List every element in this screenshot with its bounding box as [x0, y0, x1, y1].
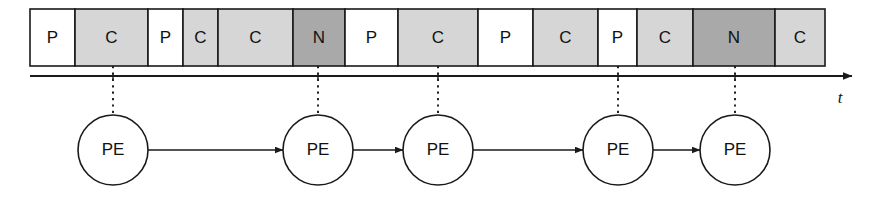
phase-cell-p-0[interactable]: P	[30, 9, 75, 66]
diagram-svg: PCPCCNPCPCPCNC t PEPEPEPEPE	[0, 0, 881, 198]
pe-node-label: PE	[427, 140, 450, 159]
phase-cell-n-5[interactable]: N	[293, 9, 345, 66]
pe-node-3[interactable]: PE	[583, 115, 653, 185]
phase-cell-c-11[interactable]: C	[637, 9, 693, 66]
phase-cell-label: C	[659, 28, 671, 47]
phase-cell-label: P	[500, 28, 511, 47]
phase-cell-c-9[interactable]: C	[533, 9, 598, 66]
pe-chain: PEPEPEPEPE	[78, 115, 770, 185]
pe-node-label: PE	[724, 140, 747, 159]
phase-cell-p-8[interactable]: P	[478, 9, 533, 66]
phase-cell-label: P	[47, 28, 58, 47]
phase-cell-n-12[interactable]: N	[693, 9, 775, 66]
phase-cell-c-3[interactable]: C	[183, 9, 218, 66]
phase-cell-label: C	[249, 28, 261, 47]
phase-cell-label: N	[728, 28, 740, 47]
phase-cell-label: C	[432, 28, 444, 47]
pe-node-label: PE	[607, 140, 630, 159]
phase-cell-c-13[interactable]: C	[775, 9, 825, 66]
pe-node-0[interactable]: PE	[78, 115, 148, 185]
phase-cell-label: P	[612, 28, 623, 47]
pe-node-label: PE	[307, 140, 330, 159]
phase-cell-label: N	[313, 28, 325, 47]
phase-band: PCPCCNPCPCPCNC	[30, 9, 825, 66]
phase-cell-label: C	[194, 28, 206, 47]
time-axis-label: t	[838, 88, 844, 107]
phase-cell-p-2[interactable]: P	[148, 9, 183, 66]
phase-cell-c-4[interactable]: C	[218, 9, 293, 66]
phase-cell-label: C	[794, 28, 806, 47]
event-drop-lines	[113, 66, 735, 115]
phase-cell-label: C	[559, 28, 571, 47]
phase-cell-c-1[interactable]: C	[75, 9, 148, 66]
diagram-canvas: PCPCCNPCPCPCNC t PEPEPEPEPE	[0, 0, 881, 198]
pe-node-4[interactable]: PE	[700, 115, 770, 185]
phase-cell-label: P	[366, 28, 377, 47]
pe-node-2[interactable]: PE	[403, 115, 473, 185]
pe-node-label: PE	[102, 140, 125, 159]
pe-node-1[interactable]: PE	[283, 115, 353, 185]
phase-cell-c-7[interactable]: C	[398, 9, 478, 66]
phase-cell-label: P	[160, 28, 171, 47]
phase-cell-p-10[interactable]: P	[598, 9, 637, 66]
phase-cell-label: C	[105, 28, 117, 47]
phase-cell-p-6[interactable]: P	[345, 9, 398, 66]
time-axis: t	[30, 73, 852, 107]
